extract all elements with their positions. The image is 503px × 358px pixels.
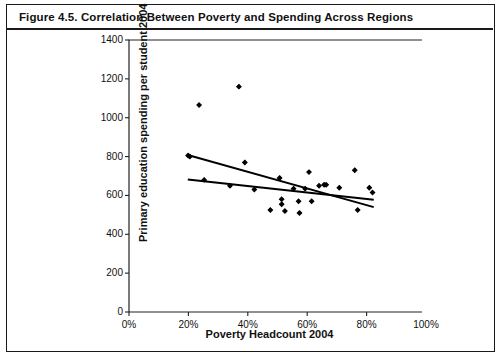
data-point	[279, 197, 283, 201]
x-tick-label: 40%	[226, 319, 270, 330]
scatter-plot-svg	[117, 32, 422, 322]
x-tick-label: 20%	[166, 319, 210, 330]
data-point	[309, 199, 313, 203]
data-points-group	[186, 84, 375, 215]
figure-title: Figure 4.5. Correlation Between Poverty …	[19, 11, 413, 23]
data-point	[353, 168, 357, 172]
x-tick-label: 100%	[404, 319, 448, 330]
data-point	[283, 209, 287, 213]
y-tick-label: 0	[85, 306, 123, 317]
data-point	[279, 202, 283, 206]
data-point	[355, 208, 359, 212]
y-tick-label: 800	[85, 151, 123, 162]
figure-container: Figure 4.5. Correlation Between Poverty …	[6, 4, 495, 352]
data-point	[370, 190, 374, 194]
data-point	[197, 103, 201, 107]
data-point	[296, 199, 300, 203]
data-point	[367, 185, 371, 189]
x-tick-label: 60%	[285, 319, 329, 330]
plot-frame	[129, 40, 422, 312]
y-tick-label: 1200	[85, 73, 123, 84]
data-point	[268, 208, 272, 212]
axis-frame	[129, 40, 422, 312]
data-point	[317, 184, 321, 188]
data-point	[337, 185, 341, 189]
data-point	[297, 211, 301, 215]
tick-marks	[125, 40, 422, 316]
y-tick-label: 200	[85, 267, 123, 278]
shallow-regression-line	[188, 179, 374, 199]
x-tick-label: 80%	[345, 319, 389, 330]
data-point	[243, 160, 247, 164]
plot-area: Primary education spending per student 2…	[117, 32, 422, 317]
data-point	[307, 170, 311, 174]
y-tick-label: 400	[85, 228, 123, 239]
y-tick-label: 1000	[85, 112, 123, 123]
y-tick-label: 600	[85, 189, 123, 200]
x-tick-label: 0%	[107, 319, 151, 330]
y-tick-label: 1400	[85, 34, 123, 45]
data-point	[252, 187, 256, 191]
data-point	[237, 84, 241, 88]
title-divider	[7, 28, 493, 30]
